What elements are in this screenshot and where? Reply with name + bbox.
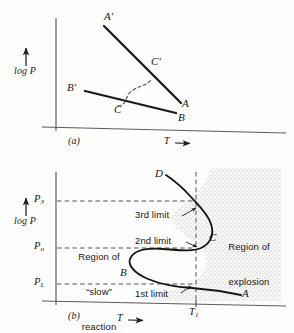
panel-a-point-c: C — [114, 104, 121, 116]
panel-b-ytick-pu: Pu — [34, 240, 44, 252]
panel-a-point-b: B — [178, 112, 185, 124]
panel-a-point-a: A — [182, 98, 189, 110]
panel-b-y-axis-label: log P — [14, 216, 36, 227]
panel-a-point-b-prime: B′ — [67, 82, 76, 94]
panel-b-ytick-pl-sub: L — [41, 281, 45, 288]
panel-b-ytick-p3: P3 — [34, 193, 44, 205]
region-slow-reaction-label: Region of “slow” reaction — [63, 228, 135, 333]
panel-a-axes — [42, 18, 286, 133]
region-slow-line-3: reaction — [63, 321, 135, 333]
panel-b-label-2nd-limit: 2nd limit — [135, 236, 171, 246]
region-slow-line-1: Region of — [63, 251, 135, 263]
region-slow-line-2: “slow” — [63, 286, 135, 298]
panel-b-ytick-pl: PL — [34, 276, 44, 288]
panel-b-ytick-pu-sub: u — [41, 245, 45, 252]
panel-a-x-axis-label: T — [164, 136, 170, 147]
panel-b-xtick-t1-sub: 1 — [195, 311, 199, 318]
panel-a-point-c-prime: C′ — [151, 56, 161, 68]
panel-b-ytick-p3-sub: 3 — [41, 198, 45, 205]
panel-b-label-1st-limit: 1st limit — [135, 289, 168, 299]
panel-b-xtick-t1: T1 — [189, 306, 199, 318]
panel-a-line-bprime-b — [85, 91, 176, 113]
panel-a-line-aprime-a — [104, 26, 181, 103]
panel-b-annotation-leader-2nd — [186, 242, 197, 247]
panel-b-point-d: D — [155, 168, 163, 180]
explosion-limits-figure: log P T (a) A′ C′ A B′ C B log P T (b) P… — [0, 0, 294, 333]
region-explosion-line-1: Region of — [215, 241, 283, 253]
panel-b-label-3rd-limit: 3rd limit — [135, 210, 169, 220]
panel-a-point-a-prime: A′ — [104, 11, 113, 23]
panel-a-caption: (a) — [68, 136, 80, 147]
region-explosion-label: Region of explosion — [215, 218, 283, 311]
region-explosion-line-2: explosion — [215, 276, 283, 288]
panel-a-y-axis-label: log P — [14, 66, 36, 77]
